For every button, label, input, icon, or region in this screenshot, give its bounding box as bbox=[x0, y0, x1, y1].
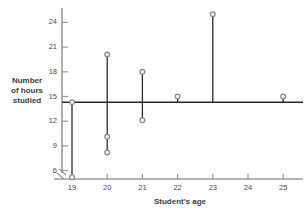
y-tick-label: 9 bbox=[41, 141, 57, 150]
y-tick-label: 6 bbox=[41, 166, 57, 175]
x-tick-label: 22 bbox=[168, 183, 188, 192]
x-tick-label: 20 bbox=[97, 183, 117, 192]
x-axis-title: Student's age bbox=[60, 197, 300, 207]
data-point-marker bbox=[105, 134, 110, 139]
x-tick-label: 24 bbox=[238, 183, 258, 192]
data-point-marker bbox=[281, 94, 286, 99]
x-tick-label: 19 bbox=[62, 183, 82, 192]
chart-container: Number of hours studied Student's age 24… bbox=[0, 0, 307, 213]
y-tick-label: 24 bbox=[41, 17, 57, 26]
data-points-group bbox=[70, 12, 286, 180]
scatter-plot-svg bbox=[0, 0, 307, 213]
data-point-marker bbox=[70, 175, 75, 180]
axes-group bbox=[54, 8, 303, 179]
data-point-marker bbox=[175, 94, 180, 99]
data-point-marker bbox=[70, 100, 75, 105]
x-tick-label: 21 bbox=[132, 183, 152, 192]
data-point-marker bbox=[210, 12, 215, 17]
data-point-marker bbox=[140, 69, 145, 74]
x-tick-label: 23 bbox=[203, 183, 223, 192]
y-tick-label: 21 bbox=[41, 42, 57, 51]
data-point-marker bbox=[140, 118, 145, 123]
y-tick-label: 18 bbox=[41, 67, 57, 76]
data-point-marker bbox=[105, 150, 110, 155]
data-point-marker bbox=[105, 52, 110, 57]
y-tick-label: 15 bbox=[41, 92, 57, 101]
x-tick-label: 25 bbox=[273, 183, 293, 192]
y-tick-label: 12 bbox=[41, 116, 57, 125]
